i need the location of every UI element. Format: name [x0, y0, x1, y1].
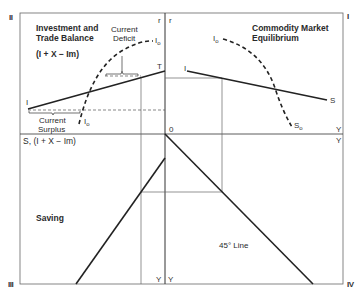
q3-title: Saving [36, 213, 64, 223]
quadrant-i-numeral: I [347, 12, 349, 21]
q2-title-line1: Investment and [36, 23, 98, 33]
deficit-label-line2: Deficit [113, 34, 135, 43]
q1-dashed-top-sub: o [215, 38, 218, 44]
q4-title: 45° Line [219, 241, 248, 250]
is-line-q1 [187, 71, 327, 100]
45-degree-line-q4 [165, 134, 313, 284]
q2-title-line2: Trade Balance [36, 33, 94, 43]
quadrant-iv-numeral: IV [347, 280, 354, 289]
quadrant-iii-numeral: III [8, 280, 13, 289]
axis-y-q4: Y [336, 136, 341, 145]
axis-y-q1: Y [336, 125, 341, 134]
q1-title-line1: Commodity Market [252, 23, 329, 33]
surplus-label-line2: Surplus [38, 125, 65, 134]
q1-line-start-label: I [184, 64, 186, 73]
q1-dashed-top-label: Io [213, 34, 219, 46]
quadrant-ii-numeral: II [9, 13, 12, 22]
axis-r-right: r [169, 16, 172, 25]
origin-label: 0 [169, 125, 173, 134]
commodity-market-curve-q1 [223, 39, 292, 127]
q2-dashed-bottom-label: Io [84, 117, 90, 129]
deficit-brace [106, 71, 138, 76]
q2-dashed-top-label: Io [155, 36, 161, 48]
surplus-brace [29, 111, 80, 115]
q1-line-end-label: S [330, 96, 335, 105]
deficit-label-line1: Current [111, 25, 138, 34]
q2-formula: (I + X − Im) [36, 49, 79, 59]
axis-s-label: S, (I + X − Im) [23, 137, 76, 146]
saving-line-q3 [76, 158, 165, 284]
q1-dashed-bottom-sub: o [299, 125, 302, 131]
q2-dashed-top-sub: o [157, 40, 160, 46]
four-quadrant-diagram [0, 0, 361, 297]
axis-y-q3b: Y [168, 275, 173, 284]
surplus-label-line1: Current [39, 116, 66, 125]
q2-dashed-bottom-sub: o [86, 121, 89, 127]
q1-title-line2: Equilibrium [252, 33, 299, 43]
q2-line-start-label: I [26, 98, 28, 107]
axis-r-left: r [158, 16, 161, 25]
q1-dashed-bottom-label: So [294, 121, 303, 133]
axis-y-q3: Y [156, 275, 161, 284]
q2-line-end-label: T [157, 62, 162, 71]
trade-balance-curve-q2 [79, 41, 153, 124]
